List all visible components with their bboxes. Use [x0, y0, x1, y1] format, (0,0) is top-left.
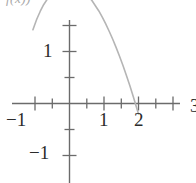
- x-tick-label-3: 3: [190, 96, 196, 115]
- x-tick-label-neg1: −1: [6, 110, 26, 129]
- math-plot-figure: f(x)) −1 1 2 1 −1: [0, 0, 196, 183]
- y-tick-label-neg1: −1: [29, 143, 49, 162]
- x-tick-label-1: 1: [99, 110, 109, 129]
- x-tick-label-3-clipped: 3: [190, 96, 196, 120]
- y-tick-label-1: 1: [43, 41, 53, 60]
- x-tick-label-2: 2: [134, 110, 144, 129]
